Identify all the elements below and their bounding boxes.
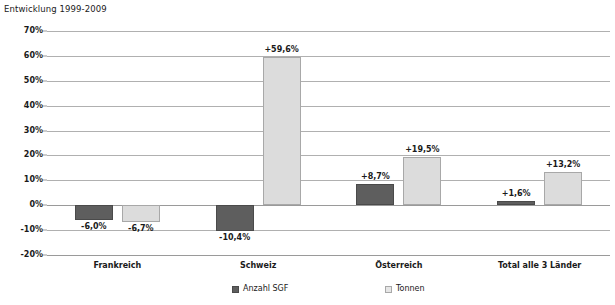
x-axis-label-schweiz: Schweiz <box>188 262 329 270</box>
chart-container: Entwicklung 1999-2009 70%60%50%40%30%20%… <box>0 0 615 305</box>
legend-label: Anzahl SGF <box>243 285 288 293</box>
y-axis-tick-label: 10% <box>24 176 43 184</box>
y-axis-tick-label: 70% <box>24 27 43 35</box>
bar-schweiz-tonnen <box>263 57 301 205</box>
bar-frankreich-anzahl-sgf <box>75 205 113 220</box>
y-axis-tick-label: -20% <box>21 251 43 259</box>
bar-total-alle-3-länder-anzahl-sgf <box>497 201 535 205</box>
bar-value-label: +59,6% <box>250 46 314 54</box>
y-axis-tick-label: 20% <box>24 151 43 159</box>
bar-value-label: -10,4% <box>203 234 267 242</box>
y-axis-tick-label: -10% <box>21 226 43 234</box>
bar-schweiz-anzahl-sgf <box>216 205 254 231</box>
chart-title: Entwicklung 1999-2009 <box>4 4 107 14</box>
bar-value-label: +19,5% <box>390 146 454 154</box>
chart-legend: Anzahl SGFTonnen <box>0 285 615 299</box>
legend-item-anzahl-sgf[interactable]: Anzahl SGF <box>232 285 288 293</box>
gridline <box>47 255 610 256</box>
y-axis: 70%60%50%40%30%20%10%0%-10%-20% <box>0 31 43 255</box>
y-axis-tick-label: 40% <box>24 102 43 110</box>
bar-frankreich-tonnen <box>122 205 160 222</box>
x-axis-label-frankreich: Frankreich <box>47 262 188 270</box>
gridline <box>47 81 610 82</box>
y-axis-tick-label: 60% <box>24 52 43 60</box>
y-axis-tick-label: 0% <box>29 201 43 209</box>
legend-label: Tonnen <box>396 285 425 293</box>
legend-swatch-icon <box>232 286 239 293</box>
bar-österreich-tonnen <box>403 157 441 206</box>
bar-value-label: +13,2% <box>531 161 595 169</box>
y-axis-tick-label: 50% <box>24 77 43 85</box>
plot-area: -6,0%-6,7%-10,4%+59,6%+8,7%+19,5%+1,6%+1… <box>47 31 610 255</box>
gridline <box>47 106 610 107</box>
gridline <box>47 131 610 132</box>
legend-item-tonnen[interactable]: Tonnen <box>385 285 425 293</box>
bar-value-label: -6,7% <box>109 225 173 233</box>
bar-österreich-anzahl-sgf <box>356 184 394 206</box>
gridline <box>47 180 610 181</box>
bar-total-alle-3-länder-tonnen <box>544 172 582 205</box>
bar-value-label: +1,6% <box>484 190 548 198</box>
gridline <box>47 56 610 57</box>
y-axis-tick-label: 30% <box>24 127 43 135</box>
legend-swatch-icon <box>385 286 392 293</box>
x-axis-label-total-alle-3-länder: Total alle 3 Länder <box>469 262 610 270</box>
gridline <box>47 155 610 156</box>
gridline <box>47 31 610 32</box>
bar-value-label: +8,7% <box>343 173 407 181</box>
x-axis-label-österreich: Österreich <box>329 262 470 270</box>
